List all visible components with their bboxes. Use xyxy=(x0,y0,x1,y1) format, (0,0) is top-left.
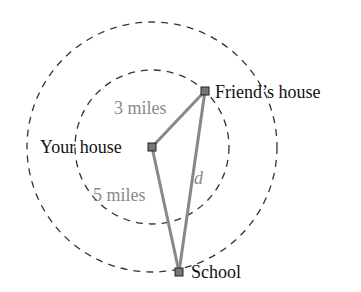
d-label: d xyxy=(194,168,204,188)
distance-diagram: Friend’s house Your house School 3 miles… xyxy=(0,0,361,292)
school-label: School xyxy=(191,262,241,282)
segment-your-to-school xyxy=(152,147,179,272)
your-house-marker xyxy=(148,143,156,151)
friends-house-marker xyxy=(201,87,209,95)
friends-house-label: Friend’s house xyxy=(215,82,321,102)
three-miles-label: 3 miles xyxy=(114,98,167,118)
your-house-label: Your house xyxy=(40,137,122,157)
five-miles-label: 5 miles xyxy=(93,185,146,205)
school-marker xyxy=(175,268,183,276)
